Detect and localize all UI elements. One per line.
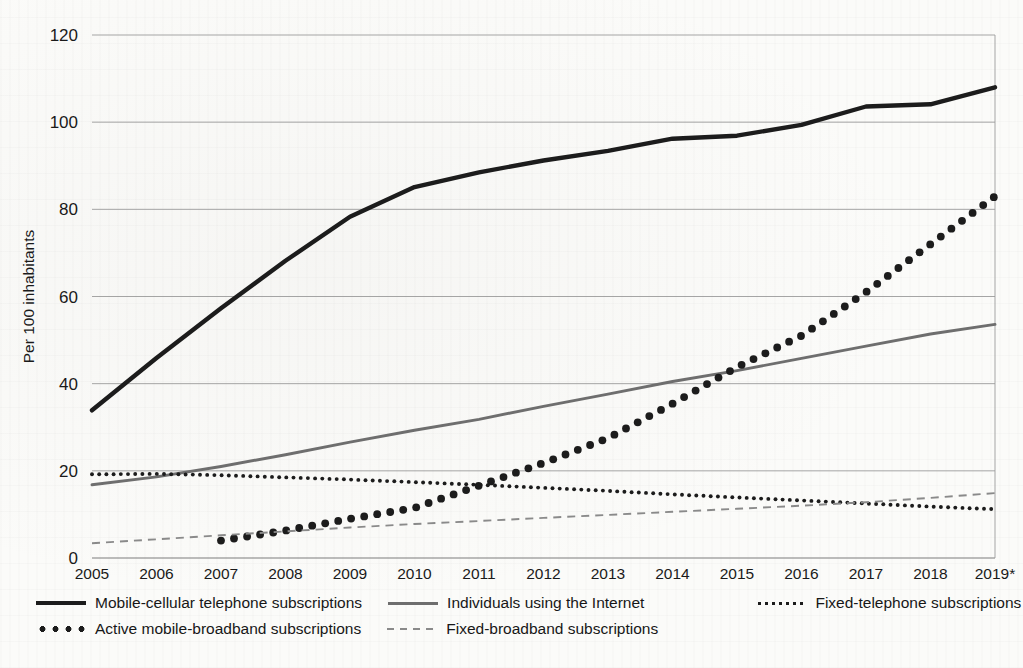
series-dot [256,474,260,478]
series-dot [299,476,303,480]
series-dot [622,425,630,433]
series-dot [958,217,966,225]
series-dot [937,233,945,241]
series-dot [802,499,806,503]
series-dot [863,288,871,296]
series-dot [462,486,470,494]
x-axis: 2005200620072008200920102011201220132014… [75,565,1016,582]
series-dot [587,488,591,492]
series-dot [248,474,252,478]
series-dot [852,295,860,303]
series-dot [270,475,274,479]
series-dot [819,317,827,325]
bold-dotted-line-icon [36,622,86,636]
legend-item[interactable]: Mobile-cellular telephone subscriptions [36,594,362,612]
x-axis-tick-label: 2015 [720,565,754,582]
legend-item[interactable]: Individuals using the Internet [388,594,644,612]
series-dot [112,472,116,476]
series-dot [475,482,483,490]
y-axis-title: Per 100 inhabitants [20,229,37,363]
series-dot [946,505,950,509]
chart-legend: Mobile-cellular telephone subscriptionsI… [0,590,1023,668]
series-dot [371,479,375,483]
series-dot [500,484,504,488]
series-dot [932,505,936,509]
series-dot [961,506,965,510]
series-dot [673,493,677,497]
series-dot [817,499,821,503]
series-dot [529,485,533,489]
series-dot [507,484,511,488]
series-dot [968,506,972,510]
solid-gray-line-icon [388,596,438,610]
legend-item[interactable]: Active mobile-broadband subscriptions [36,620,361,638]
series-dot [651,491,655,495]
series-dot [797,332,805,340]
series-dot [234,474,238,478]
series-dot [155,472,159,476]
series-dot [969,209,977,217]
series-dot [910,504,914,508]
x-axis-tick-label: 2016 [784,565,818,582]
series-dot [428,481,432,485]
x-axis-tick-label: 2017 [849,565,883,582]
series-dot [321,519,329,527]
series-dot [364,478,368,482]
y-axis-tick-label: 20 [59,462,78,481]
series-dot [347,515,355,523]
series-dot [407,480,411,484]
series-dot [169,472,173,476]
series-dot [308,522,316,530]
series-dot [824,500,828,504]
series-dot [119,472,123,476]
series-1 [92,324,995,484]
series-dot [608,489,612,493]
series-dot [443,481,447,485]
series-dot [90,472,94,476]
series-dot [263,475,267,479]
series-dot [687,493,691,497]
series-dot [926,241,934,249]
legend-row: Active mobile-broadband subscriptionsFix… [0,616,1023,642]
x-axis-tick-label: 2011 [462,565,495,582]
series-dot [437,495,445,503]
solid-thick-line-icon [36,596,86,610]
y-axis-tick-label: 120 [50,26,78,45]
series-dot [565,487,569,491]
legend-item[interactable]: Fixed-broadband subscriptions [387,620,658,638]
series-line [92,493,995,543]
series-dot [745,496,749,500]
series-dot [334,517,342,525]
legend-label: Fixed-broadband subscriptions [446,620,658,638]
x-axis-tick-label: 2013 [591,565,625,582]
legend-item[interactable]: Fixed-telephone subscriptions [756,594,1021,612]
series-dot [133,472,137,476]
series-dot [198,473,202,477]
series-dot [313,476,317,480]
series-dot [905,256,913,264]
x-axis-tick-label: 2014 [655,565,690,582]
series-dot [549,455,557,463]
x-axis-tick-label: 2010 [397,565,432,582]
series-dot [227,474,231,478]
series-dot [953,506,957,510]
series-dot [97,472,101,476]
series-dot [230,535,238,543]
series-dot [658,492,662,496]
series-dot [715,374,723,382]
series-dot [601,489,605,493]
series-dot [349,478,353,482]
series-dot [450,482,454,486]
series-dot [435,481,439,485]
series-dot [500,473,508,481]
series-dot [392,479,396,483]
series-dot [599,436,607,444]
series-dot [948,225,956,233]
series-dot [773,344,781,352]
series-dot [450,491,458,499]
legend-row: Mobile-cellular telephone subscriptionsI… [0,590,1023,616]
series-dot [212,473,216,477]
series-dot [551,486,555,490]
series-dot [809,499,813,503]
series-dot [666,492,670,496]
